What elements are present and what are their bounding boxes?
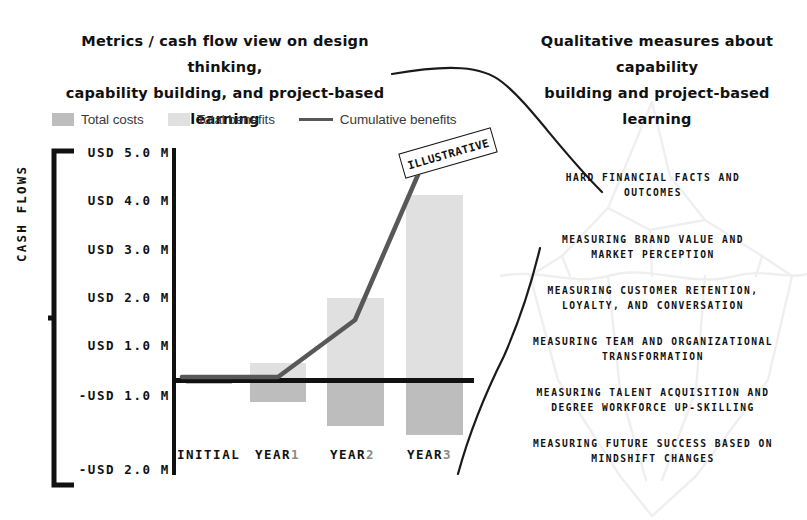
iceberg-item-customer-retention: MEASURING CUSTOMER RETENTION,LOYALTY, AN… (508, 283, 798, 313)
left-headline-line-1: Metrics / cash flow view on design think… (60, 28, 390, 80)
y-axis-line (172, 148, 176, 475)
slide-canvas: Metrics / cash flow view on design think… (0, 0, 807, 520)
x-tick-year-2: YEAR2 (330, 447, 375, 462)
bar-year2-costs (327, 380, 384, 426)
x-tick-year-1-name: YEAR (255, 447, 291, 462)
iceberg-item-future-success: MEASURING FUTURE SUCCESS BASED ONMINDSHI… (508, 436, 798, 466)
x-tick-initial-name: INITIAL (177, 447, 240, 462)
bar-year2-benefits (327, 298, 384, 380)
iceberg-item-talent-acquisition: MEASURING TALENT ACQUISITION ANDDEGREE W… (508, 385, 798, 415)
iceberg-item-hard-financial-facts: HARD FINANCIAL FACTS ANDOUTCOMES (508, 170, 798, 200)
y-tick-4: USD 4.0 M (62, 193, 170, 208)
legend-label-total-costs: Total costs (81, 112, 144, 127)
legend-label-cumulative-benefits: Cumulative benefits (340, 112, 457, 127)
right-headline-line-2: building and project-based learning (512, 80, 802, 132)
right-headline: Qualitative measures about capability bu… (512, 28, 802, 132)
legend-swatch-total-benefits (168, 113, 190, 126)
y-tick-minus-1: -USD 1.0 M (54, 388, 170, 403)
bar-year1-costs (250, 380, 306, 402)
y-tick-2: USD 2.0 M (62, 290, 170, 305)
chart-plot-area (172, 148, 490, 483)
y-tick-1: USD 1.0 M (62, 338, 170, 353)
y-axis-title: CASH FLOWS (14, 165, 29, 262)
bar-year3-benefits (406, 195, 463, 380)
legend-line-cumulative-benefits (299, 118, 333, 121)
x-tick-year-1-number: 1 (291, 447, 300, 462)
legend-label-total-benefits: Total benefits (197, 112, 275, 127)
x-tick-year-3-number: 3 (443, 447, 452, 462)
x-tick-year-3-name: YEAR (407, 447, 443, 462)
y-tick-5: USD 5.0 M (62, 145, 170, 160)
x-tick-year-1: YEAR1 (255, 447, 300, 462)
x-tick-year-3: YEAR3 (407, 447, 452, 462)
iceberg-item-team-transformation: MEASURING TEAM AND ORGANIZATIONALTRANSFO… (508, 334, 798, 364)
iceberg-item-brand-value: MEASURING BRAND VALUE ANDMARKET PERCEPTI… (508, 232, 798, 262)
legend-swatch-total-costs (52, 113, 74, 126)
bar-year3-costs (406, 380, 463, 435)
right-headline-line-1: Qualitative measures about capability (512, 28, 802, 80)
x-tick-initial: INITIAL (177, 447, 240, 462)
y-tick-3: USD 3.0 M (62, 242, 170, 257)
cumulative-benefits-line (182, 148, 440, 377)
chart-legend: Total costs Total benefits Cumulative be… (52, 112, 457, 127)
x-tick-year-2-number: 2 (366, 447, 375, 462)
y-tick-minus-2: -USD 2.0 M (54, 462, 170, 477)
x-tick-year-2-name: YEAR (330, 447, 366, 462)
